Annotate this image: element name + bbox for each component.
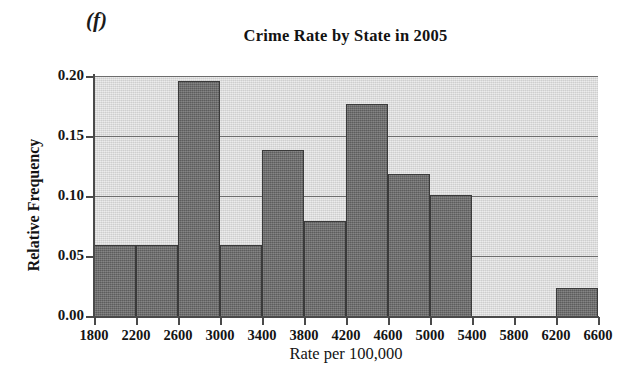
y-tick-mark [86, 316, 94, 318]
x-tick-label: 5000 [408, 327, 452, 344]
x-tick-label: 4200 [324, 327, 368, 344]
x-tick-label: 3800 [282, 327, 326, 344]
x-tick-mark [262, 317, 264, 325]
y-tick-label: 0.20 [36, 67, 84, 84]
y-tick-mark [86, 76, 94, 78]
histogram-bar [430, 195, 472, 316]
y-tick-mark [86, 256, 94, 258]
histogram-bar [136, 245, 178, 316]
y-tick-label: 0.10 [36, 187, 84, 204]
y-tick-label: 0.00 [36, 307, 84, 324]
x-tick-label: 6200 [534, 327, 578, 344]
histogram-bar [346, 104, 388, 316]
y-tick-label: 0.05 [36, 247, 84, 264]
histogram-bar [556, 288, 598, 316]
x-tick-label: 4600 [366, 327, 410, 344]
x-tick-mark [220, 317, 222, 325]
x-tick-mark [430, 317, 432, 325]
plot-area [94, 76, 598, 316]
x-tick-mark [178, 317, 180, 325]
y-tick-mark [86, 196, 94, 198]
x-tick-mark [472, 317, 474, 325]
x-tick-mark [304, 317, 306, 325]
x-tick-label: 5400 [450, 327, 494, 344]
x-tick-mark [346, 317, 348, 325]
chart-title: Crime Rate by State in 2005 [93, 26, 598, 46]
y-tick-label: 0.15 [36, 127, 84, 144]
histogram-bar [178, 81, 220, 316]
x-tick-mark [94, 317, 96, 325]
x-tick-label: 3000 [198, 327, 242, 344]
histogram-bar [94, 245, 136, 316]
x-tick-mark [598, 317, 600, 325]
x-tick-label: 1800 [72, 327, 116, 344]
y-axis-title: Relative Frequency [25, 100, 43, 310]
x-tick-mark [514, 317, 516, 325]
histogram-bar [220, 245, 262, 316]
y-tick-mark [86, 136, 94, 138]
x-tick-label: 6600 [576, 327, 620, 344]
histogram-bar [304, 221, 346, 316]
x-axis-title: Rate per 100,000 [94, 344, 598, 364]
x-tick-mark [136, 317, 138, 325]
x-tick-label: 3400 [240, 327, 284, 344]
gridline [94, 76, 598, 77]
x-tick-label: 2600 [156, 327, 200, 344]
x-tick-label: 5800 [492, 327, 536, 344]
x-tick-mark [388, 317, 390, 325]
x-tick-mark [556, 317, 558, 325]
x-tick-label: 2200 [114, 327, 158, 344]
histogram-bar [388, 174, 430, 316]
histogram-bar [262, 150, 304, 316]
